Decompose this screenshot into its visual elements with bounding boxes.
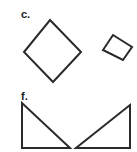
right-right-triangle [76,105,130,148]
small-rotated-square [103,35,132,60]
shapes-canvas [0,0,137,152]
large-rotated-square [24,20,81,82]
left-right-triangle [22,103,70,148]
